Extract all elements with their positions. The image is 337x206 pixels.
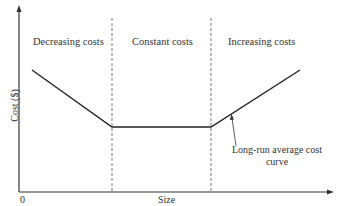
- y-axis-label: Cost ($): [9, 86, 20, 126]
- region-label-decreasing: Decreasing costs: [33, 36, 104, 47]
- x-axis-arrow-icon: [327, 190, 334, 195]
- annotation-line-2: curve: [222, 156, 332, 168]
- origin-label: 0: [20, 194, 25, 205]
- diagram-canvas: [0, 0, 337, 206]
- x-axis-label: Size: [158, 194, 175, 205]
- curve-annotation: Long-run average cost curve: [222, 144, 332, 168]
- region-label-constant: Constant costs: [132, 36, 193, 47]
- annotation-line-1: Long-run average cost: [222, 144, 332, 156]
- region-label-increasing: Increasing costs: [228, 36, 295, 47]
- long-run-average-cost-curve: [32, 70, 300, 127]
- annotation-pointer: [232, 118, 236, 146]
- y-axis-arrow-icon: [17, 5, 22, 12]
